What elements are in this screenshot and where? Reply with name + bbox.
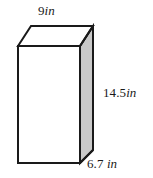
prism-front-face bbox=[18, 46, 80, 163]
dimension-depth-value: 6.7 bbox=[87, 156, 104, 171]
dimension-width-value: 9 bbox=[38, 3, 45, 18]
dimension-height-value: 14.5 bbox=[103, 85, 126, 100]
dimension-label-depth: 6.7 in bbox=[87, 157, 117, 170]
dimension-label-height: 14.5in bbox=[103, 86, 136, 99]
dimension-label-width: 9in bbox=[38, 4, 55, 17]
dimension-height-unit: in bbox=[126, 85, 136, 100]
dimension-width-unit: in bbox=[45, 3, 55, 18]
prism-right-face bbox=[80, 26, 93, 163]
dimension-depth-unit: in bbox=[104, 156, 118, 171]
